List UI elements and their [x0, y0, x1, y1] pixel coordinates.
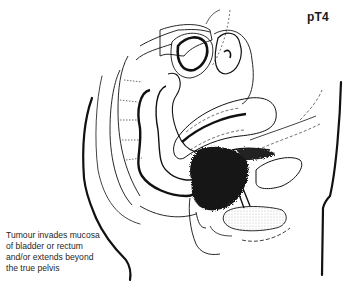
- caption: Tumour invades mucosa of bladder or rect…: [6, 230, 116, 274]
- tumour-mass: [190, 147, 276, 211]
- caption-line: the true pelvis: [6, 263, 116, 274]
- bowel-loops: [171, 10, 253, 104]
- caption-line: of bladder or rectum: [6, 241, 116, 252]
- stage-label: pT4: [307, 10, 329, 24]
- caption-line: and/or extends beyond: [6, 252, 116, 263]
- caption-line: Tumour invades mucosa: [6, 230, 116, 241]
- perineum: [140, 206, 206, 228]
